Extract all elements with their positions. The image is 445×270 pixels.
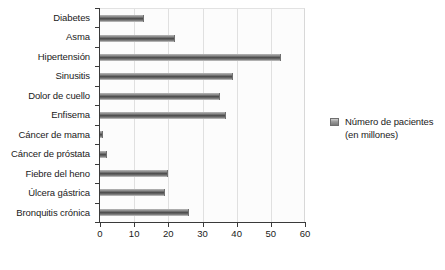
bar-row: [100, 86, 304, 105]
bar-series: [100, 9, 304, 222]
category-label: Enfisema: [0, 105, 96, 124]
category-label: Sinusitis: [0, 66, 96, 85]
x-axis-ticks: [100, 222, 305, 227]
x-axis-tick-label: 50: [266, 229, 277, 239]
bar: [100, 112, 226, 119]
category-label: Asma: [0, 27, 96, 46]
bar-row: [100, 203, 304, 222]
x-axis-tick-label: 30: [197, 229, 208, 239]
bar-row: [100, 28, 304, 47]
x-axis-tick: [100, 222, 101, 227]
bar: [100, 35, 175, 42]
bar-row: [100, 9, 304, 28]
legend: Número de pacientes (en millones): [330, 116, 433, 141]
bar-row: [100, 145, 304, 164]
bar-row: [100, 164, 304, 183]
bar: [100, 93, 220, 100]
bar: [100, 151, 107, 158]
x-axis-tick-label: 10: [129, 229, 140, 239]
category-label: Úlcera gástrica: [0, 183, 96, 202]
category-axis-labels: Diabetes Asma Hipertensión Sinusitis Dol…: [0, 8, 96, 222]
category-label: Hipertensión: [0, 47, 96, 66]
x-axis-tick: [203, 222, 204, 227]
bar: [100, 131, 103, 138]
category-label: Cáncer de mama: [0, 125, 96, 144]
x-axis-tick-label: 40: [231, 229, 242, 239]
category-label: Cáncer de próstata: [0, 144, 96, 163]
bar: [100, 15, 144, 22]
category-label: Bronquitis crónica: [0, 203, 96, 222]
bar-row: [100, 67, 304, 86]
x-axis-tick-label: 20: [163, 229, 174, 239]
x-axis-tick-label: 0: [97, 229, 102, 239]
x-axis-tick: [168, 222, 169, 227]
bar: [100, 73, 233, 80]
bar: [100, 54, 281, 61]
bar-row: [100, 106, 304, 125]
bar-row: [100, 125, 304, 144]
category-label: Fiebre del heno: [0, 164, 96, 183]
bar: [100, 170, 168, 177]
x-axis-tick-labels: 0102030405060: [100, 229, 305, 243]
bar: [100, 189, 165, 196]
x-axis-tick: [237, 222, 238, 227]
bar-row: [100, 48, 304, 67]
bar-chart: Diabetes Asma Hipertensión Sinusitis Dol…: [0, 0, 445, 270]
x-axis-tick-label: 60: [300, 229, 311, 239]
bar: [100, 209, 189, 216]
plot-area: [100, 8, 305, 222]
x-axis-tick: [134, 222, 135, 227]
category-label: Diabetes: [0, 8, 96, 27]
category-label: Dolor de cuello: [0, 86, 96, 105]
legend-swatch-icon: [330, 118, 339, 126]
x-axis-tick: [305, 222, 306, 227]
x-axis-tick: [271, 222, 272, 227]
bar-row: [100, 183, 304, 202]
legend-label: Número de pacientes (en millones): [345, 116, 433, 141]
